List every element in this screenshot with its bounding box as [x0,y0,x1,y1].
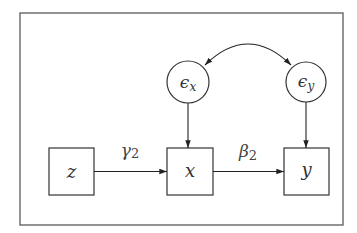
covariance-arrow-epsilon-x-epsilon-y [205,44,291,65]
path-diagram: z x y ϵx ϵy γ2 β2 [0,0,357,233]
node-z-label: z [66,161,77,182]
edge-x-to-y-label: β2 [238,141,257,163]
edge-z-to-x: γ2 [94,140,167,172]
edge-z-to-x-label: γ2 [121,140,139,161]
node-z: z [49,148,94,195]
node-x: x [167,148,213,195]
node-y-label: y [300,159,312,180]
node-epsilon-y: ϵy [286,62,326,102]
node-epsilon-x: ϵx [167,61,209,103]
node-y: y [284,148,329,195]
edge-x-to-y: β2 [213,141,284,172]
node-x-label: x [185,160,195,181]
